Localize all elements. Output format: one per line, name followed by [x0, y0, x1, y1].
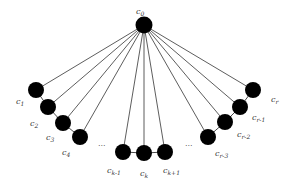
label-c3: c3 [46, 133, 54, 143]
label-ck: ck [140, 169, 148, 179]
label-c4: c4 [62, 148, 70, 158]
label-c1: c1 [16, 97, 24, 107]
star-path-graph-diagram: c0c1c2c3c4ck-1ckck+1cr-3cr-2cr-1cr .....… [0, 0, 291, 191]
ellipsis: ... [98, 139, 106, 148]
label-cr-2: cr-2 [237, 130, 250, 140]
label-ck-1: ck-1 [107, 166, 121, 176]
label-ck+1: ck+1 [163, 166, 180, 176]
ellipsis: ... [185, 139, 193, 148]
spoke-edge [144, 25, 225, 122]
node-c4 [72, 129, 88, 145]
node-cr-1 [232, 99, 248, 115]
node-c3 [55, 115, 71, 131]
hub-label: c0 [136, 7, 144, 17]
node-ck-1 [115, 144, 131, 160]
label-cr-3: cr-3 [215, 149, 228, 159]
node-c2 [40, 99, 56, 115]
node-cr-3 [200, 129, 216, 145]
hub-spoke-edges [36, 25, 253, 153]
node-ck [136, 145, 152, 161]
node-c1 [28, 82, 44, 98]
spoke-edge [144, 25, 240, 107]
label-cr-1: cr-1 [252, 113, 265, 123]
node-ck+1 [157, 144, 173, 160]
hub-node [136, 17, 153, 34]
spoke-edge [144, 25, 253, 90]
node-cr-2 [217, 114, 233, 130]
label-cr: cr [271, 95, 279, 105]
node-cr [245, 82, 261, 98]
graph-nodes [28, 17, 261, 162]
spoke-edge [48, 25, 144, 107]
spoke-edge [63, 25, 144, 123]
spoke-edge [36, 25, 144, 90]
label-c2: c2 [30, 119, 38, 129]
